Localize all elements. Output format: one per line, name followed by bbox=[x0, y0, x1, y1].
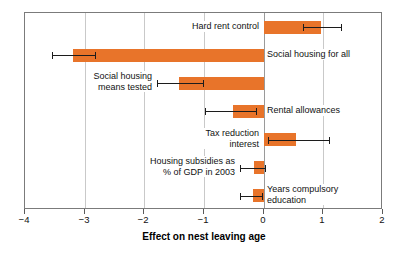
x-tick-label: −2 bbox=[138, 214, 149, 225]
error-bar-cap-low bbox=[52, 52, 53, 59]
category-label: Hard rent control bbox=[191, 21, 260, 32]
error-bar-cap-high bbox=[265, 165, 266, 172]
category-label: Tax reduction interest bbox=[204, 128, 260, 149]
category-label: Years compulsory education bbox=[266, 184, 339, 205]
x-tick-label: −3 bbox=[79, 214, 90, 225]
error-bar-line bbox=[240, 196, 262, 197]
category-label: Social housing means tested bbox=[92, 71, 153, 92]
x-tick-label: 0 bbox=[260, 214, 265, 225]
error-bar-cap-low bbox=[303, 24, 304, 31]
error-bar-cap-high bbox=[256, 108, 257, 115]
error-bar-line bbox=[52, 55, 95, 56]
error-bar-cap-low bbox=[240, 193, 241, 200]
error-bar-cap-low bbox=[268, 137, 269, 144]
x-axis-title: Effect on nest leaving age bbox=[0, 231, 408, 242]
error-bar-line bbox=[303, 27, 341, 28]
x-tick-label: 2 bbox=[379, 214, 384, 225]
error-bar-cap-low bbox=[240, 165, 241, 172]
error-bar-cap-low bbox=[205, 108, 206, 115]
x-tick-label: −4 bbox=[19, 214, 30, 225]
error-bar-cap-high bbox=[95, 52, 96, 59]
category-label: Social housing for all bbox=[266, 49, 351, 60]
category-label: Housing subsidies as % of GDP in 2003 bbox=[149, 156, 236, 177]
bar-row bbox=[25, 69, 381, 97]
error-bar-cap-high bbox=[341, 24, 342, 31]
error-bar-line bbox=[157, 83, 202, 84]
category-label: Rental allowances bbox=[266, 105, 341, 116]
error-bar-line bbox=[205, 111, 256, 112]
error-bar-cap-high bbox=[203, 80, 204, 87]
chart-root: Hard rent controlSocial housing for allS… bbox=[0, 0, 408, 254]
bar-row bbox=[25, 126, 381, 154]
bar[interactable] bbox=[73, 49, 263, 62]
error-bar-cap-high bbox=[329, 137, 330, 144]
error-bar-line bbox=[268, 140, 329, 141]
error-bar-cap-high bbox=[262, 193, 263, 200]
error-bar-line bbox=[240, 168, 264, 169]
x-tick-label: 1 bbox=[319, 214, 324, 225]
error-bar-cap-low bbox=[157, 80, 158, 87]
x-tick-label: −1 bbox=[198, 214, 209, 225]
